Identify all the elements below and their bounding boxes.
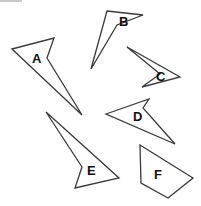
shape-c: C — [127, 47, 180, 87]
shape-b-outline — [91, 11, 143, 69]
shape-c-label: C — [156, 69, 166, 84]
shapes-diagram: A B C D E F — [0, 0, 201, 206]
shape-e: E — [46, 112, 119, 188]
shape-f: F — [140, 145, 193, 198]
shape-e-label: E — [87, 163, 96, 178]
shape-d: D — [106, 99, 175, 144]
shape-e-outline — [46, 112, 119, 188]
shape-b-label: B — [119, 14, 128, 29]
shape-a: A — [12, 38, 82, 115]
clipped-header-text — [0, 0, 22, 2]
shape-d-label: D — [133, 109, 142, 124]
shape-a-outline — [12, 38, 82, 115]
shape-c-outline — [127, 47, 180, 87]
shape-b: B — [91, 11, 143, 69]
shape-a-label: A — [32, 51, 42, 66]
shape-f-label: F — [154, 167, 162, 182]
shape-f-outline — [140, 145, 193, 198]
